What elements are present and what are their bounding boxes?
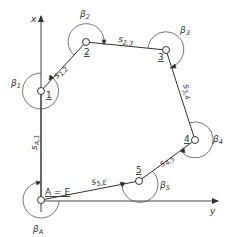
angle-label-4: β4 xyxy=(212,134,223,146)
point-a-e xyxy=(38,197,45,204)
side-labels: sA,1 s1,2 s2,3 s3,4 s4,5 s5,E xyxy=(29,34,195,189)
point-label-4: 4 xyxy=(184,134,190,144)
point-label-5: 5 xyxy=(136,165,142,175)
angle-label-a: βA xyxy=(32,224,43,236)
point-label-3: 3 xyxy=(158,52,164,62)
angle-label-1: β1 xyxy=(10,78,21,90)
traverse-points xyxy=(38,39,199,204)
point-label-a-e: A = E xyxy=(45,187,70,197)
point-4 xyxy=(192,137,199,144)
x-axis-label: x xyxy=(30,14,37,24)
angle-arc-5 xyxy=(122,171,158,202)
arrowhead-4 xyxy=(180,148,185,153)
arrowhead-a xyxy=(36,181,41,185)
angle-label-5: β5 xyxy=(159,180,170,192)
traverse-diagram: x y A = xyxy=(0,0,233,237)
angle-label-3: β3 xyxy=(179,25,190,37)
angle-label-2: β2 xyxy=(79,9,90,21)
side-label-5-e: s5,E xyxy=(90,174,108,189)
side-label-4-5: s4,5 xyxy=(157,152,176,171)
point-1 xyxy=(38,88,45,95)
point-2 xyxy=(83,39,90,46)
point-label-1: 1 xyxy=(46,90,52,100)
arrowhead-5 xyxy=(120,182,125,187)
point-label-2: 2 xyxy=(84,47,90,57)
side-label-a-1: sA,1 xyxy=(29,135,41,150)
point-5 xyxy=(136,178,143,185)
y-axis-label: y xyxy=(209,206,216,216)
